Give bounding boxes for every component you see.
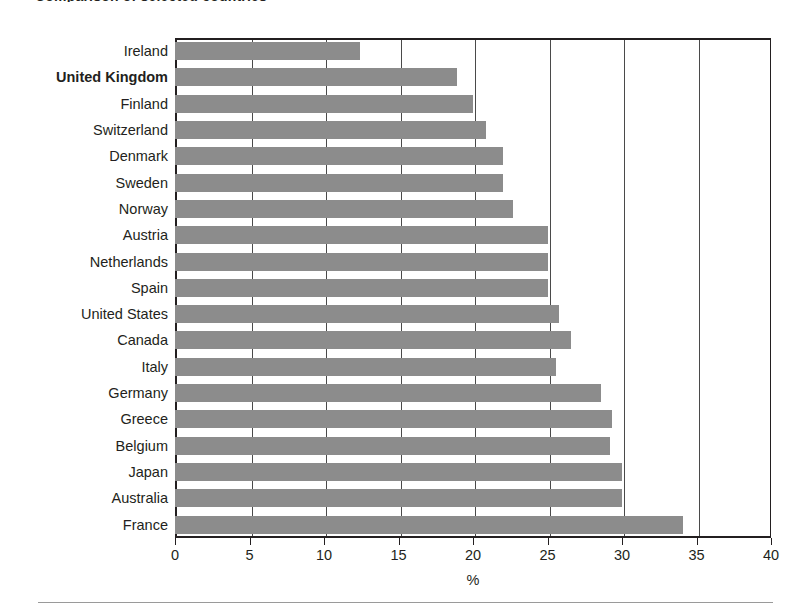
y-axis-label: Sweden xyxy=(0,170,168,196)
y-axis-label: United States xyxy=(0,301,168,327)
bar xyxy=(175,200,513,218)
y-axis-label: Spain xyxy=(0,275,168,301)
x-tick-label: 15 xyxy=(390,547,406,563)
bar-row xyxy=(175,327,771,353)
x-tick-label: 30 xyxy=(614,547,630,563)
bar-rows xyxy=(175,38,771,538)
bar-row xyxy=(175,406,771,432)
bar-row xyxy=(175,433,771,459)
bar xyxy=(175,437,610,455)
x-tick xyxy=(399,538,400,545)
y-axis-label: Netherlands xyxy=(0,249,168,275)
bar-row xyxy=(175,143,771,169)
y-axis-label: Greece xyxy=(0,406,168,432)
bar xyxy=(175,410,612,428)
y-axis-label: Italy xyxy=(0,354,168,380)
bar xyxy=(175,95,473,113)
y-axis-label: Austria xyxy=(0,222,168,248)
x-tick-label: 5 xyxy=(245,547,253,563)
y-axis-label: Germany xyxy=(0,380,168,406)
bar xyxy=(175,226,548,244)
x-tick xyxy=(622,538,623,545)
bar xyxy=(175,489,622,507)
x-tick xyxy=(473,538,474,545)
y-axis-label: Denmark xyxy=(0,143,168,169)
bar xyxy=(175,305,559,323)
bottom-divider xyxy=(38,602,773,603)
bar xyxy=(175,174,503,192)
bar-row xyxy=(175,512,771,538)
x-tick xyxy=(771,538,772,545)
bar xyxy=(175,358,556,376)
bar xyxy=(175,516,683,534)
bar-row xyxy=(175,275,771,301)
bar-row xyxy=(175,91,771,117)
bar xyxy=(175,253,548,271)
x-tick xyxy=(697,538,698,545)
bar xyxy=(175,331,571,349)
y-axis-label: United Kingdom xyxy=(0,64,168,90)
y-axis-label: France xyxy=(0,512,168,538)
x-tick-label: 40 xyxy=(763,547,779,563)
x-axis-tick-labels: 0510152025303540 xyxy=(175,547,771,569)
bar-row xyxy=(175,459,771,485)
x-tick-label: 0 xyxy=(171,547,179,563)
bar-row xyxy=(175,380,771,406)
bar xyxy=(175,384,601,402)
y-axis-label: Japan xyxy=(0,459,168,485)
x-tick xyxy=(324,538,325,545)
y-axis-label: Ireland xyxy=(0,38,168,64)
bar-row xyxy=(175,222,771,248)
x-tick-label: 25 xyxy=(539,547,555,563)
x-tick-label: 35 xyxy=(688,547,704,563)
x-tick-label: 10 xyxy=(316,547,332,563)
bar xyxy=(175,68,457,86)
y-axis-labels: IrelandUnited KingdomFinlandSwitzerlandD… xyxy=(0,38,168,538)
x-tick xyxy=(250,538,251,545)
bar-row xyxy=(175,249,771,275)
y-axis-label: Finland xyxy=(0,91,168,117)
y-axis-label: Belgium xyxy=(0,433,168,459)
y-axis-label: Norway xyxy=(0,196,168,222)
bar-row xyxy=(175,170,771,196)
x-tick-label: 20 xyxy=(465,547,481,563)
bar-row xyxy=(175,117,771,143)
bar-row xyxy=(175,196,771,222)
bar-row xyxy=(175,64,771,90)
bar xyxy=(175,121,486,139)
bar xyxy=(175,42,360,60)
bar xyxy=(175,463,622,481)
x-tick xyxy=(548,538,549,545)
y-axis-label: Australia xyxy=(0,485,168,511)
bar xyxy=(175,279,548,297)
x-axis-title: % xyxy=(175,572,771,588)
x-tick xyxy=(175,538,176,545)
bar-row xyxy=(175,485,771,511)
bar-chart: IrelandUnited KingdomFinlandSwitzerlandD… xyxy=(0,0,803,614)
y-axis-label: Canada xyxy=(0,327,168,353)
bar-row xyxy=(175,301,771,327)
bar xyxy=(175,147,503,165)
y-axis-label: Switzerland xyxy=(0,117,168,143)
bar-row xyxy=(175,354,771,380)
bar-row xyxy=(175,38,771,64)
